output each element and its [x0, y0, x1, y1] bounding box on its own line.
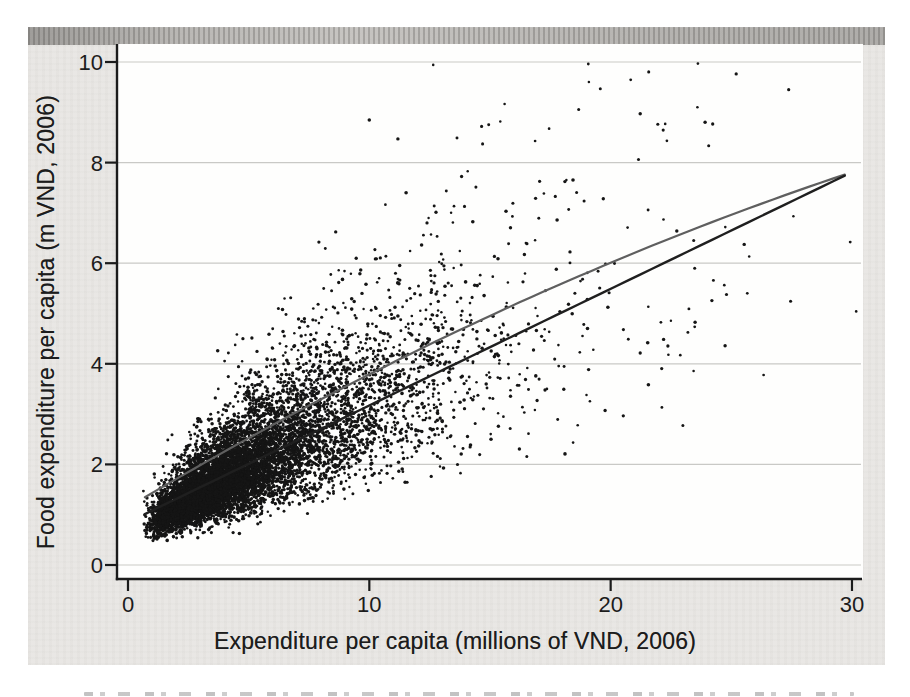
x-axis-title: Expenditure per capita (millions of VND,… [214, 628, 696, 655]
y-tick-label-8: 8 [91, 151, 103, 176]
scanned-page: 01020300246810 Expenditure per capita (m… [0, 0, 910, 697]
y-tick-label-2: 2 [91, 452, 103, 477]
x-tick-label-0: 0 [122, 592, 134, 617]
cropped-caption-artifact [84, 692, 854, 696]
y-tick-label-10: 10 [79, 50, 103, 75]
x-tick-label-30: 30 [840, 592, 864, 617]
y-axis-title: Food expenditure per capita (m VND, 2006… [33, 95, 60, 549]
y-tick-label-0: 0 [91, 553, 103, 578]
y-tick-label-4: 4 [91, 352, 103, 377]
x-tick-label-20: 20 [598, 592, 622, 617]
y-tick-label-6: 6 [91, 251, 103, 276]
x-tick-label-10: 10 [357, 592, 381, 617]
scatter-chart: 01020300246810 [0, 0, 910, 697]
